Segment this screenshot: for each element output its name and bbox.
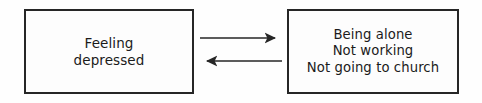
- node-feeling-depressed[interactable]: Feeling depressed: [24, 9, 194, 94]
- node-feeling-depressed-label: Feeling depressed: [74, 35, 145, 68]
- arrow-right-to-left[interactable]: [196, 53, 288, 69]
- arrow-left-to-right[interactable]: [196, 30, 288, 46]
- diagram-canvas: Feeling depressed Being alone Not workin…: [0, 0, 482, 103]
- node-avoidance-behaviors-label: Being alone Not working Not going to chu…: [307, 27, 439, 76]
- node-avoidance-behaviors[interactable]: Being alone Not working Not going to chu…: [287, 9, 459, 94]
